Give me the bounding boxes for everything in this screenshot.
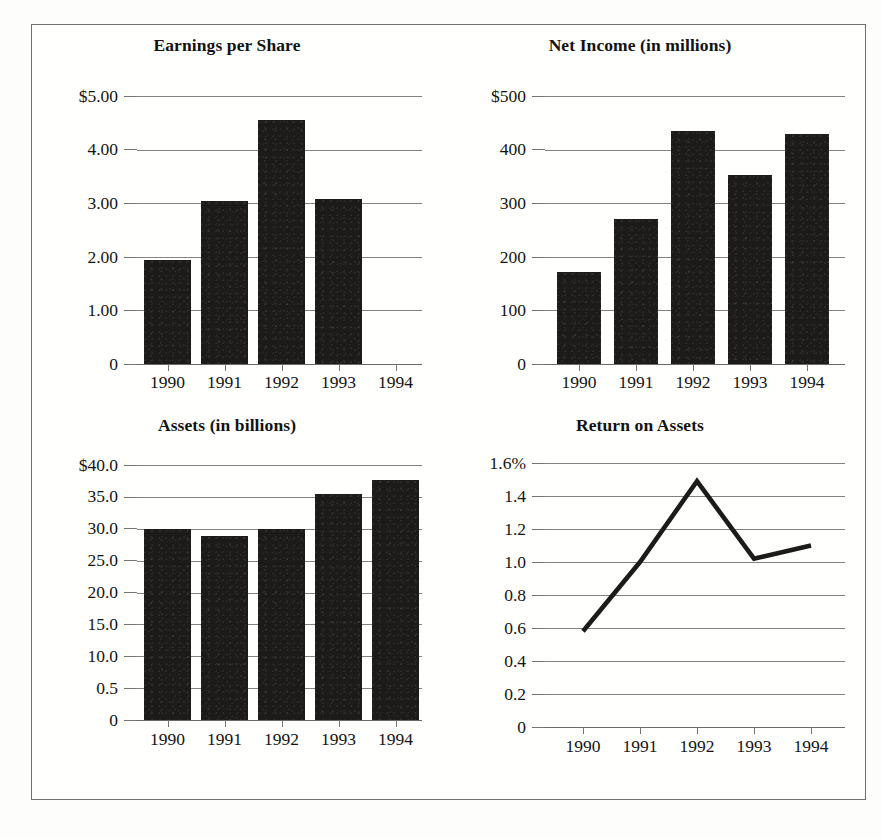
ytick-mark-roa-3 bbox=[532, 562, 545, 563]
xtick-label-assets-1994: 1994 bbox=[363, 731, 428, 749]
panel-title-return-on-assets: Return on Assets bbox=[470, 415, 810, 436]
ytick-mark-assets-2 bbox=[124, 528, 137, 529]
ytick-label-roa-4: 0.8 bbox=[450, 587, 526, 605]
gridline-earnings-0 bbox=[137, 364, 422, 365]
ytick-mark-net-income-4 bbox=[532, 310, 545, 311]
ytick-mark-assets-8 bbox=[124, 720, 137, 721]
xtick-mark-assets-1990 bbox=[168, 720, 169, 727]
xtick-mark-earnings-1991 bbox=[225, 364, 226, 371]
ytick-mark-earnings-1 bbox=[124, 149, 137, 150]
bar-net-income-1992 bbox=[671, 131, 715, 364]
gridline-assets-0 bbox=[137, 720, 422, 721]
bar-assets-1993 bbox=[315, 494, 362, 720]
panel-title-net-income: Net Income (in millions) bbox=[470, 35, 810, 56]
ytick-label-net-income-2: 300 bbox=[450, 195, 526, 213]
xtick-mark-roa-1994 bbox=[811, 727, 812, 734]
ytick-mark-roa-2 bbox=[532, 529, 545, 530]
xtick-mark-roa-1991 bbox=[640, 727, 641, 734]
xtick-mark-assets-1992 bbox=[282, 720, 283, 727]
ytick-mark-earnings-5 bbox=[124, 364, 137, 365]
xtick-label-earnings-1990: 1990 bbox=[135, 374, 200, 392]
bar-assets-1991 bbox=[201, 536, 248, 720]
bar-net-income-1990 bbox=[557, 272, 601, 364]
ytick-label-assets-8: 0 bbox=[32, 712, 118, 730]
bar-net-income-1991 bbox=[614, 219, 658, 364]
xtick-label-assets-1990: 1990 bbox=[135, 731, 200, 749]
bar-assets-1992 bbox=[258, 529, 305, 720]
plot-area-return-on-assets bbox=[545, 463, 845, 727]
ytick-label-earnings-3: 2.00 bbox=[32, 249, 118, 267]
bar-earnings-1993 bbox=[315, 199, 362, 364]
ytick-label-earnings-0: $5.00 bbox=[32, 88, 118, 106]
xtick-label-net-income-1994: 1994 bbox=[774, 374, 840, 392]
ytick-mark-earnings-0 bbox=[124, 96, 137, 97]
ytick-label-net-income-3: 200 bbox=[450, 249, 526, 267]
ytick-label-net-income-5: 0 bbox=[450, 356, 526, 374]
plot-area-earnings bbox=[137, 96, 422, 364]
ytick-mark-assets-1 bbox=[124, 497, 137, 498]
xtick-mark-assets-1994 bbox=[396, 720, 397, 727]
xtick-mark-earnings-1993 bbox=[339, 364, 340, 371]
ytick-label-roa-2: 1.2 bbox=[450, 521, 526, 539]
xtick-mark-net-income-1992 bbox=[693, 364, 694, 371]
gridline-assets-40 bbox=[137, 465, 422, 466]
bar-earnings-1992 bbox=[258, 120, 305, 364]
ytick-label-assets-1: 35.0 bbox=[32, 488, 118, 506]
ytick-label-assets-3: 25.0 bbox=[32, 552, 118, 570]
xtick-mark-assets-1991 bbox=[225, 720, 226, 727]
ytick-label-roa-6: 0.4 bbox=[450, 653, 526, 671]
ytick-label-assets-2: 30.0 bbox=[32, 520, 118, 538]
xtick-label-earnings-1992: 1992 bbox=[249, 374, 314, 392]
xtick-mark-roa-1993 bbox=[754, 727, 755, 734]
ytick-mark-net-income-3 bbox=[532, 257, 545, 258]
bar-earnings-1991 bbox=[201, 201, 248, 365]
ytick-mark-assets-7 bbox=[124, 688, 137, 689]
xtick-mark-assets-1993 bbox=[339, 720, 340, 727]
ytick-label-roa-1: 1.4 bbox=[450, 488, 526, 506]
ytick-mark-earnings-4 bbox=[124, 310, 137, 311]
panel-assets: Assets (in billions) $40.0 35.0 30.0 25.… bbox=[32, 415, 450, 795]
ytick-label-earnings-4: 1.00 bbox=[32, 302, 118, 320]
xtick-mark-earnings-1994 bbox=[396, 364, 397, 371]
ytick-label-assets-6: 10.0 bbox=[32, 648, 118, 666]
ytick-label-net-income-1: 400 bbox=[450, 141, 526, 159]
xtick-mark-roa-1992 bbox=[697, 727, 698, 734]
ytick-mark-roa-0 bbox=[532, 463, 545, 464]
ytick-mark-net-income-5 bbox=[532, 364, 545, 365]
ytick-label-roa-5: 0.6 bbox=[450, 620, 526, 638]
panel-title-assets: Assets (in billions) bbox=[62, 415, 392, 436]
ytick-mark-earnings-3 bbox=[124, 257, 137, 258]
ytick-mark-assets-4 bbox=[124, 592, 137, 593]
ytick-label-roa-7: 0.2 bbox=[450, 686, 526, 704]
ytick-label-roa-8: 0 bbox=[450, 719, 526, 737]
xtick-mark-earnings-1990 bbox=[168, 364, 169, 371]
ytick-label-earnings-1: 4.00 bbox=[32, 141, 118, 159]
figure-frame: Earnings per Share $5.00 4.00 3.00 2.00 … bbox=[31, 24, 866, 800]
bar-assets-1994 bbox=[372, 480, 419, 720]
panel-title-earnings-per-share: Earnings per Share bbox=[62, 35, 392, 56]
ytick-mark-net-income-1 bbox=[532, 149, 545, 150]
xtick-label-roa-1994: 1994 bbox=[778, 738, 844, 756]
ytick-mark-roa-6 bbox=[532, 661, 545, 662]
figure-page: Earnings per Share $5.00 4.00 3.00 2.00 … bbox=[0, 0, 882, 839]
gridline-roa-0 bbox=[545, 727, 845, 728]
ytick-mark-roa-1 bbox=[532, 496, 545, 497]
xtick-label-assets-1991: 1991 bbox=[192, 731, 257, 749]
ytick-label-assets-0: $40.0 bbox=[32, 457, 118, 475]
ytick-label-earnings-5: 0 bbox=[32, 356, 118, 374]
ytick-mark-roa-4 bbox=[532, 595, 545, 596]
xtick-mark-net-income-1994 bbox=[807, 364, 808, 371]
line-series-return-on-assets bbox=[545, 463, 845, 727]
ytick-label-roa-0: 1.6% bbox=[450, 455, 526, 473]
ytick-mark-assets-3 bbox=[124, 560, 137, 561]
ytick-mark-roa-5 bbox=[532, 628, 545, 629]
xtick-mark-net-income-1993 bbox=[750, 364, 751, 371]
panel-return-on-assets: Return on Assets 1.6% 1.4 1.2 1.0 0.8 0.… bbox=[450, 415, 867, 795]
gridline-earnings-5 bbox=[137, 96, 422, 97]
panel-earnings-per-share: Earnings per Share $5.00 4.00 3.00 2.00 … bbox=[32, 33, 450, 388]
xtick-label-assets-1993: 1993 bbox=[306, 731, 371, 749]
gridline-net-income-500 bbox=[545, 96, 845, 97]
bar-earnings-1990 bbox=[144, 260, 191, 365]
ytick-mark-roa-8 bbox=[532, 727, 545, 728]
xtick-label-earnings-1991: 1991 bbox=[192, 374, 257, 392]
